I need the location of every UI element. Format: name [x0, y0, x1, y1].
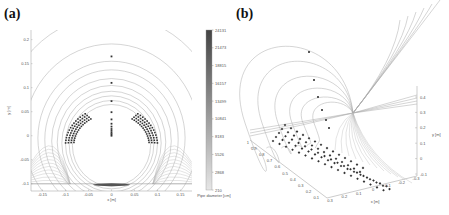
y-tick-label: 0.1	[23, 85, 29, 90]
pipe-marker	[111, 128, 113, 130]
pipe-marker	[111, 130, 113, 132]
depth-tick-label: 0.4	[290, 177, 296, 182]
x-axis-label: x [m]	[107, 197, 116, 202]
pipe-marker	[325, 119, 327, 121]
x-tick-label: 0.3	[327, 198, 333, 203]
x-tick-label: -0.1	[62, 192, 70, 197]
colorbar-tick-label: 18815	[215, 63, 227, 68]
pipe-marker	[111, 123, 113, 125]
depth-tick-label: 0.8	[259, 152, 265, 157]
colorbar-label: Pipe diameter [cm]	[197, 193, 230, 198]
figure-canvas: -0.15-0.1-0.0500.050.10.150.20.150.10.05…	[0, 0, 449, 215]
depth-tick-label: 0.5	[282, 171, 288, 176]
depth-tick-label: 0.6	[275, 164, 281, 169]
field-lines-3d	[240, 0, 440, 183]
colorbar-tick-label: 2868	[215, 170, 225, 175]
x-axis-label: x [m]	[371, 199, 380, 204]
x-tick-label: -0.05	[84, 192, 94, 197]
y-axis-label: y [m]	[6, 106, 11, 115]
colorbar-tick-label: 5526	[215, 152, 225, 157]
y-tick-label: 0.05	[21, 109, 30, 114]
colorbar-tick-label: 10841	[215, 116, 227, 121]
depth-tick-label: 0.9	[251, 146, 257, 151]
z-tick-label: 0.3	[420, 110, 426, 115]
z-tick-label: -0.1	[420, 172, 428, 177]
colorbar	[206, 30, 212, 190]
pipe-marker	[111, 135, 113, 137]
colorbar-tick-label: 24131	[215, 28, 227, 33]
pipe-marker	[313, 79, 315, 81]
x-tick-label: -0.1	[384, 183, 392, 188]
y-tick-label: 0.2	[23, 37, 29, 42]
pipe-markers	[65, 56, 158, 187]
panel-a-plot	[1, 15, 222, 215]
x-tick-label: 0.2	[342, 194, 348, 199]
z-tick-label: 0.1	[420, 141, 426, 146]
colorbar-tick-label: 8183	[215, 134, 225, 139]
panel-b-plot	[240, 0, 440, 198]
x-tick-label: 0.05	[131, 192, 140, 197]
colorbar-tick-label: 13499	[215, 99, 227, 104]
depth-tick-label: 0.1	[313, 195, 319, 200]
y-tick-label: 0	[27, 133, 30, 138]
x-tick-label: -0.2	[398, 180, 406, 185]
x-tick-label: -0.15	[38, 192, 48, 197]
y-tick-label: -0.1	[22, 181, 30, 186]
pipe-marker	[111, 82, 113, 84]
z-tick-label: 0	[420, 156, 423, 161]
y-tick-label: 0.15	[21, 61, 30, 66]
pipe-marker	[328, 127, 330, 129]
pipe-marker	[111, 126, 113, 128]
depth-tick-label: 0.7	[267, 158, 273, 163]
x-tick-label: 0.15	[177, 192, 186, 197]
depth-tick-label: 0.3	[298, 183, 304, 188]
x-tick-label: -0.3	[413, 176, 421, 181]
x-tick-label: 0.1	[356, 191, 362, 196]
colorbar-tick-label: 21473	[215, 45, 227, 50]
pipe-marker	[111, 56, 113, 58]
z-axis-label: y [m]	[432, 132, 441, 137]
z-tick-label: 0.4	[420, 95, 426, 100]
colorbar-tick-label: 16157	[215, 81, 227, 86]
pipe-marker	[308, 51, 310, 53]
pipe-marker	[111, 100, 113, 102]
pipe-marker	[317, 96, 319, 98]
depth-tick-label: 1	[247, 140, 250, 145]
colorbar-tick-label: 210	[215, 188, 222, 193]
y-tick-label: -0.05	[20, 157, 30, 162]
x-tick-label: 0	[372, 187, 375, 192]
pipe-marker	[111, 118, 113, 120]
pipe-marker	[321, 109, 323, 111]
z-tick-label: 0.2	[420, 125, 426, 130]
pipe-marker	[111, 111, 113, 113]
x-tick-label: 0.1	[155, 192, 161, 197]
depth-tick-label: 0.2	[306, 189, 312, 194]
